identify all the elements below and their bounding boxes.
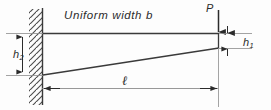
h1-label: h1	[243, 37, 254, 50]
beam-diagram-figure: Uniform width b h2 h1 P ℓ	[0, 0, 271, 110]
h1-label-base: h	[243, 36, 249, 48]
h2-label: h2	[13, 49, 24, 62]
h2-label-subscript: 2	[20, 53, 24, 62]
h1-label-subscript: 1	[250, 41, 254, 50]
h2-label-base: h	[13, 48, 19, 60]
uniform-width-label: Uniform width b	[64, 10, 153, 22]
beam-bottom-edge	[43, 48, 219, 75]
length-label: ℓ	[122, 74, 127, 87]
tapered-beam-outline	[42, 33, 219, 75]
fixed-support-wall	[29, 8, 43, 105]
load-label: P	[206, 3, 213, 14]
wall-hatching	[29, 9, 42, 105]
